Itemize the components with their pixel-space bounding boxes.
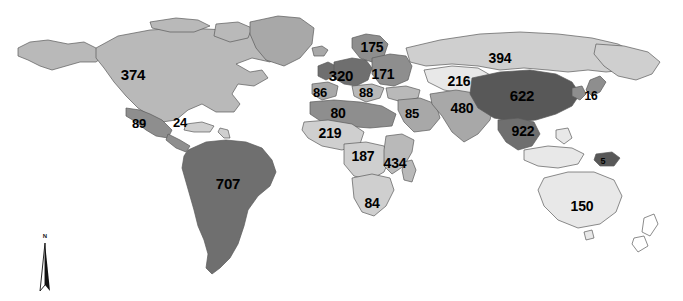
region-value-western-europe: 320: [329, 68, 353, 83]
region-value-australia: 150: [571, 199, 594, 213]
region-value-middle-east: 85: [405, 107, 419, 120]
region-value-southeast-asia: 922: [512, 124, 535, 138]
region-value-russia: 394: [489, 51, 512, 65]
region-value-china: 622: [510, 88, 534, 103]
region-value-north-america: 374: [121, 67, 145, 82]
region-value-central-africa: 187: [352, 149, 375, 163]
region-value-south-asia: 480: [451, 101, 474, 115]
north-arrow-label: N: [30, 233, 60, 239]
region-value-mexico: 89: [132, 117, 146, 130]
world-map-figure: 3748924707175320171868880219852164803946…: [0, 0, 683, 301]
north-arrow: N: [30, 233, 60, 295]
region-value-northern-europe: 175: [361, 40, 384, 54]
region-tasmania: [584, 230, 594, 240]
region-value-west-africa: 219: [319, 126, 342, 140]
region-value-balkans: 88: [359, 86, 373, 99]
region-value-southern-africa: 84: [364, 196, 379, 210]
region-value-papua-new-guinea: 5: [601, 157, 606, 166]
region-value-east-africa: 434: [384, 156, 407, 170]
region-value-north-africa: 80: [330, 106, 345, 120]
north-arrow-needle: [30, 241, 60, 295]
region-value-central-asia: 216: [448, 74, 471, 88]
region-value-iberia: 86: [313, 86, 327, 99]
region-value-caribbean: 24: [173, 116, 187, 129]
region-value-eastern-europe: 171: [372, 67, 395, 81]
world-map-graphic: [0, 0, 683, 301]
region-value-south-america: 707: [216, 176, 240, 191]
region-value-japan: 16: [585, 90, 598, 102]
